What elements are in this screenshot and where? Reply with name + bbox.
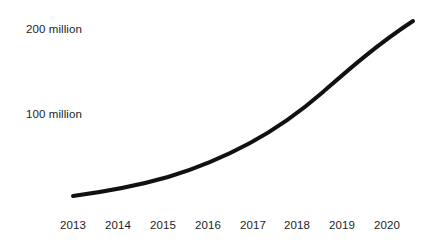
x-axis-label-2020: 2020 — [357, 219, 417, 231]
y-axis-label-100-million: 100 million — [0, 108, 82, 120]
data-series-line — [73, 21, 413, 196]
line-chart: 200 million 100 million 2013 2014 2015 2… — [0, 0, 435, 251]
chart-plot-area — [0, 0, 435, 251]
y-axis-label-200-million: 200 million — [0, 23, 82, 35]
